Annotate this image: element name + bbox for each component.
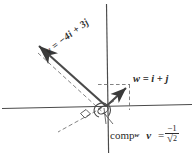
fraction-minus-one-over-root-two: −1 √2 (165, 124, 179, 144)
comp-subscript-w: w (134, 132, 139, 139)
construction-lines-group (38, 53, 130, 132)
y-axis (107, 4, 109, 153)
comp-vector-v: v (146, 130, 151, 141)
component-expression-label: compw v = −1 √2 (110, 125, 179, 145)
comp-leader-line-upper (104, 108, 106, 124)
vector-w-label: w = i + j (133, 74, 168, 85)
fraction-denominator: √2 (166, 134, 178, 144)
radicand: 2 (173, 135, 177, 143)
vector-projection-figure: v = −4i + 3j w = i + j compw v = −1 √2 (0, 0, 194, 157)
vector-w-shaft (107, 88, 127, 106)
comp-equals: = (158, 130, 164, 141)
comp-word: comp (110, 130, 134, 141)
vector-w-group (107, 88, 127, 106)
right-angle-marker-icon (81, 110, 91, 119)
